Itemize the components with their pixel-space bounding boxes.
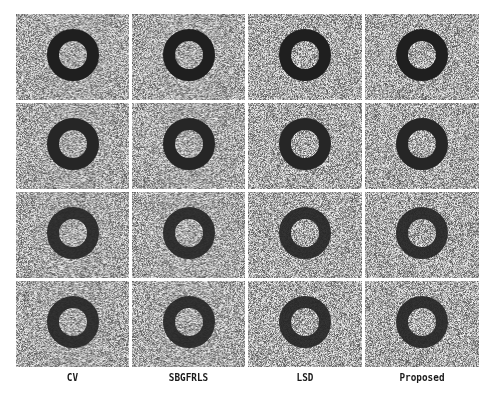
panel-r2-sbgfrls <box>132 103 245 189</box>
panel-r1-sbgfrls <box>132 14 245 100</box>
ring-object <box>396 29 448 81</box>
ring-object <box>163 118 215 170</box>
ring-object <box>279 29 331 81</box>
column-label-lsd: LSD <box>257 371 354 384</box>
panel-r4-cv <box>16 281 129 367</box>
ring-object <box>47 29 99 81</box>
panel-r4-sbgfrls <box>132 281 245 367</box>
ring-object <box>279 207 331 259</box>
ring-object <box>279 296 331 348</box>
column-label-sbgfrls: SBGFRLS <box>140 371 236 384</box>
ring-object <box>396 207 448 259</box>
ring-object <box>163 296 215 348</box>
panel-r1-cv <box>16 14 129 100</box>
ring-object <box>47 118 99 170</box>
panel-r2-proposed <box>365 103 479 189</box>
column-label-proposed: Proposed <box>374 371 471 384</box>
ring-object <box>47 207 99 259</box>
column-labels: CV SBGFRLS LSD Proposed <box>16 371 477 384</box>
panel-r3-cv <box>16 192 129 278</box>
panel-r2-lsd <box>248 103 362 189</box>
panel-r3-proposed <box>365 192 479 278</box>
ring-object <box>47 296 99 348</box>
image-grid <box>16 14 477 367</box>
ring-object <box>396 296 448 348</box>
ring-object <box>163 207 215 259</box>
panel-r4-lsd <box>248 281 362 367</box>
column-label-cv: CV <box>24 371 120 384</box>
panel-r4-proposed <box>365 281 479 367</box>
ring-object <box>396 118 448 170</box>
ring-object <box>163 29 215 81</box>
figure: CV SBGFRLS LSD Proposed <box>16 14 477 384</box>
panel-r3-lsd <box>248 192 362 278</box>
panel-r1-lsd <box>248 14 362 100</box>
panel-r2-cv <box>16 103 129 189</box>
panel-r1-proposed <box>365 14 479 100</box>
ring-object <box>279 118 331 170</box>
panel-r3-sbgfrls <box>132 192 245 278</box>
